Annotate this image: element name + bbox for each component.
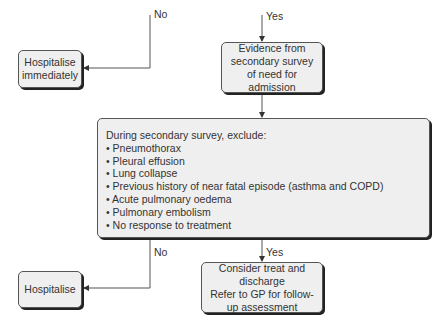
evidence-node: Evidence from secondary survey of need f…: [221, 42, 323, 93]
hospitalise-text: Hospitalise: [24, 283, 75, 296]
hospitalise-immediately-node: Hospitalise immediately: [18, 50, 82, 88]
exclusion-item: • Acute pulmonary oedema: [106, 193, 429, 206]
consider-text: Consider treat and discharge: [206, 262, 318, 288]
bottom-no-label: No: [154, 246, 167, 258]
hospitalise-node: Hospitalise: [18, 271, 82, 308]
consider-discharge-node: Consider treat and discharge Refer to GP…: [201, 262, 323, 313]
exclusion-heading: During secondary survey, exclude:: [106, 129, 429, 142]
exclusion-item: • Previous history of near fatal episode…: [106, 180, 429, 193]
bottom-yes-label: Yes: [266, 246, 283, 258]
exclusion-item: • Pleural effusion: [106, 155, 429, 168]
top-no-connector: [84, 15, 150, 68]
exclusion-item: • Pulmonary embolism: [106, 206, 429, 219]
exclusion-item: • Lung collapse: [106, 167, 429, 180]
exclusion-item: • No response to treatment: [106, 219, 429, 232]
refer-gp-text: Refer to GP for follow-up assessment: [206, 288, 318, 314]
top-yes-label: Yes: [266, 10, 283, 22]
evidence-text: Evidence from secondary survey of need f…: [226, 42, 318, 94]
exclusion-node: During secondary survey, exclude: • Pneu…: [97, 118, 430, 238]
exclusion-list: • Pneumothorax • Pleural effusion • Lung…: [106, 142, 429, 232]
bottom-no-connector: [84, 239, 150, 288]
top-no-label: No: [154, 8, 167, 20]
exclusion-item: • Pneumothorax: [106, 142, 429, 155]
hospitalise-immediately-text: Hospitalise immediately: [22, 56, 78, 82]
